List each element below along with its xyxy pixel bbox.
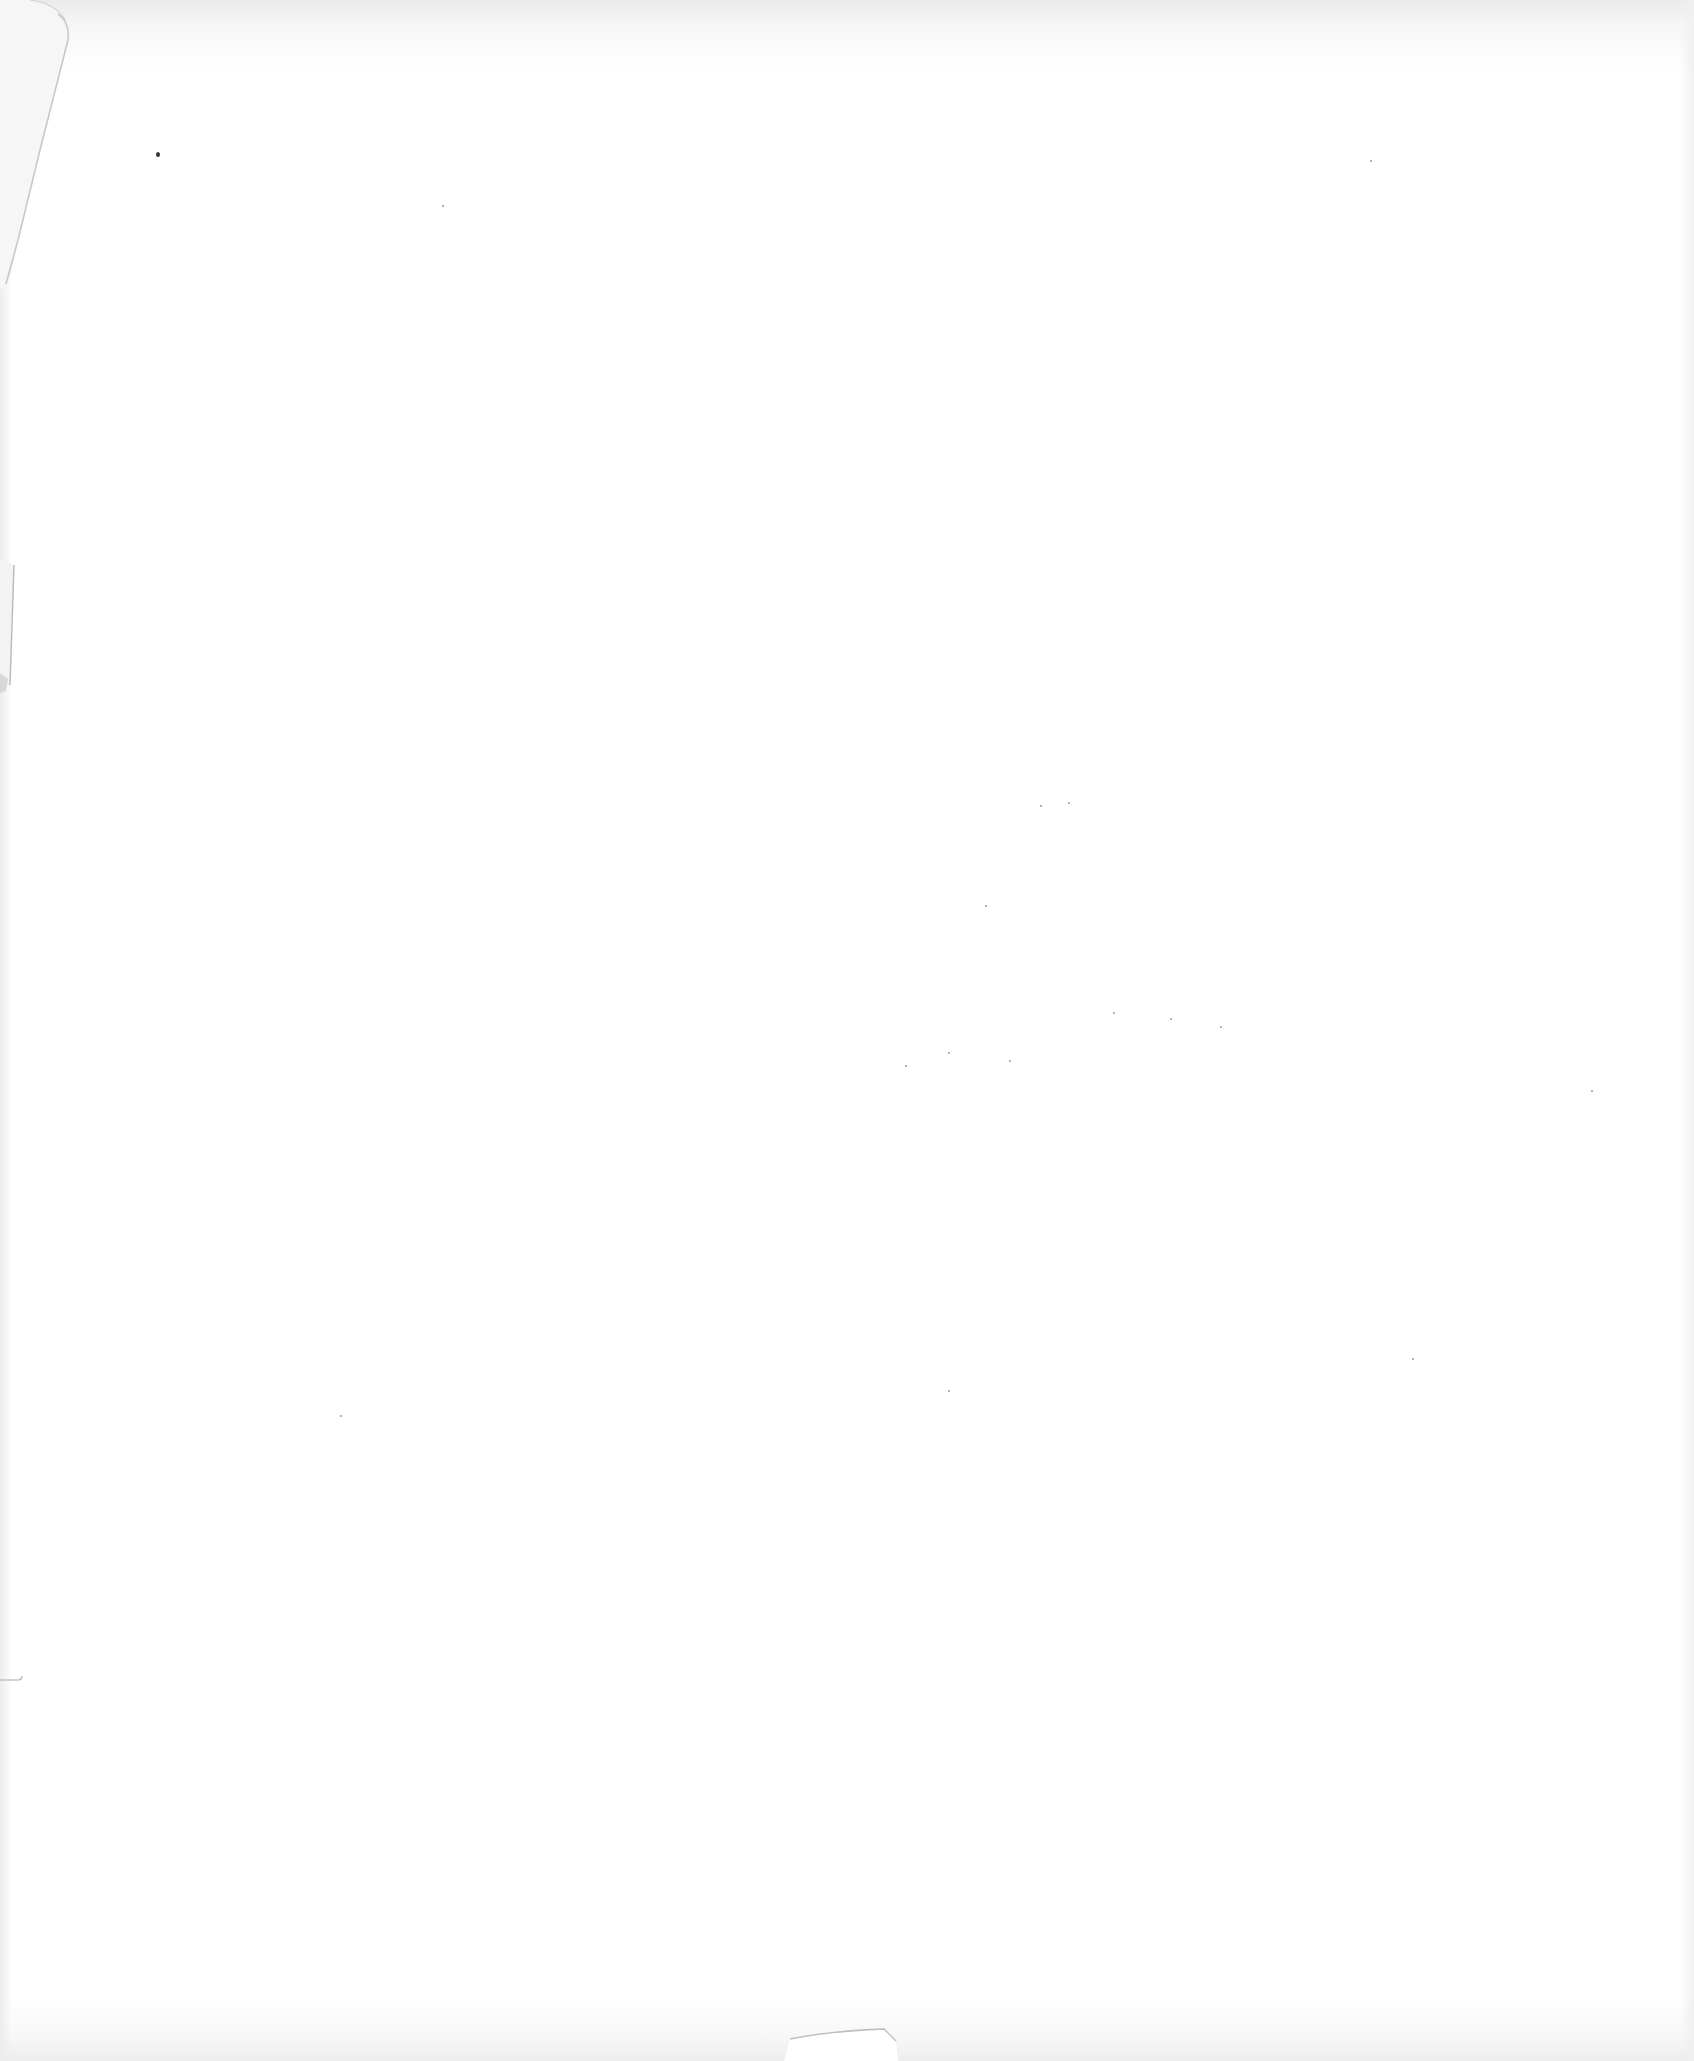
right-scan-shadow [1680,0,1694,2061]
scan-speck [948,1052,950,1054]
scan-speck [1040,805,1042,807]
scan-speck [985,905,987,907]
blank-scanned-page [0,0,1694,2061]
edge-hook-mark [0,1670,30,1690]
scan-speck [442,205,444,207]
scan-speck [1113,1012,1115,1014]
scan-speck [1009,1060,1011,1062]
scan-speck [948,1390,950,1392]
scan-speck [156,152,160,157]
scan-speck [1412,1358,1414,1360]
scan-speck [1170,1018,1172,1020]
bottom-curled-tab [780,2025,910,2061]
scan-speck [340,1415,342,1417]
top-scan-shadow [0,0,1694,70]
folded-corner-flap [0,0,80,290]
side-tab-mark [0,555,22,695]
scan-speck [1591,1090,1593,1092]
scan-speck [905,1065,907,1067]
scan-speck [1068,802,1070,804]
scan-speck [1370,160,1372,162]
left-scan-shadow [0,0,12,2061]
scan-speck [1220,1026,1222,1028]
